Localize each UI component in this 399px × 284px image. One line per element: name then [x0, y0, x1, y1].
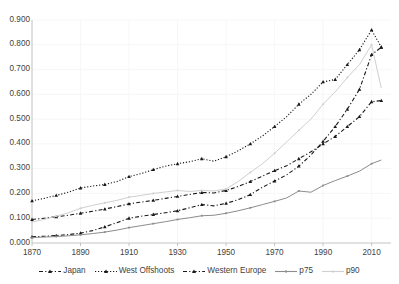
- legend-item-western-europe[interactable]: Western Europe: [183, 266, 266, 276]
- y-tick-label: 0.000: [0, 238, 30, 247]
- legend-item-label: Japan: [63, 266, 85, 276]
- y-tick-label: 0.800: [0, 39, 30, 48]
- y-tick-label: 0.500: [0, 114, 30, 123]
- x-tick-label: 1930: [158, 248, 198, 257]
- x-tick-label: 1890: [61, 248, 101, 257]
- chart-plot-area: [0, 0, 399, 284]
- legend-item-label: p75: [299, 266, 313, 276]
- x-tick-label: 1990: [303, 248, 343, 257]
- legend-item-p90[interactable]: p90: [322, 266, 360, 276]
- x-tick-label: 1970: [255, 248, 295, 257]
- legend-item-p75[interactable]: p75: [275, 266, 313, 276]
- y-tick-label: 0.700: [0, 64, 30, 73]
- x-tick-label: 1950: [206, 248, 246, 257]
- chart-legend: JapanWest OffshootsWestern Europep75p90: [0, 262, 399, 280]
- legend-item-label: West Offshoots: [119, 266, 175, 276]
- legend-item-west-offshoots[interactable]: West Offshoots: [95, 266, 175, 276]
- legend-swatch-icon: [95, 267, 117, 276]
- legend-swatch-icon: [275, 267, 297, 276]
- legend-item-japan[interactable]: Japan: [39, 266, 85, 276]
- x-tick-label: 1870: [12, 248, 52, 257]
- legend-swatch-icon: [322, 267, 344, 276]
- legend-item-label: Western Europe: [207, 266, 266, 276]
- y-tick-label: 0.900: [0, 15, 30, 24]
- legend-swatch-icon: [39, 267, 61, 276]
- legend-item-label: p90: [346, 266, 360, 276]
- y-tick-label: 0.200: [0, 188, 30, 197]
- y-tick-label: 0.400: [0, 138, 30, 147]
- x-tick-label: 1910: [109, 248, 149, 257]
- legend-swatch-icon: [183, 267, 205, 276]
- y-tick-label: 0.300: [0, 163, 30, 172]
- chart-container: 0.9000.8000.7000.6000.5000.4000.3000.200…: [0, 0, 399, 284]
- y-tick-label: 0.100: [0, 213, 30, 222]
- x-tick-label: 2010: [352, 248, 392, 257]
- y-tick-label: 0.600: [0, 89, 30, 98]
